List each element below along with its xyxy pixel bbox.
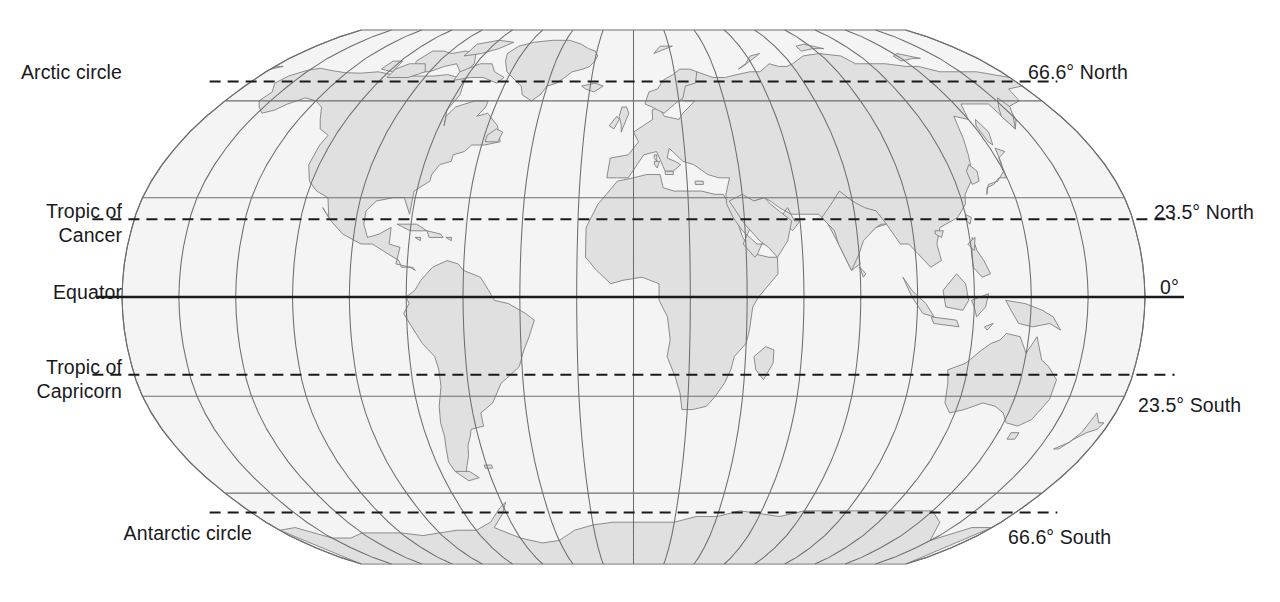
landmass-sicily <box>665 171 673 174</box>
world-map-canvas <box>0 0 1280 602</box>
label-arctic-circle-right: 66.6° North <box>1028 60 1128 84</box>
label-tropic-of-capricorn-right: 23.5° South <box>1138 393 1241 417</box>
label-tropic-of-cancer-right: 23.5° North <box>1154 200 1254 224</box>
label-tropic-of-cancer-left: Tropic of Cancer <box>46 199 122 247</box>
landmass-crete <box>695 181 703 184</box>
label-antarctic-circle-left: Antarctic circle <box>124 521 252 545</box>
landmass-falkland <box>484 465 492 468</box>
world-map-figure: Arctic circle Tropic of Cancer Equator T… <box>0 0 1280 602</box>
label-tropic-of-capricorn-left: Tropic of Capricorn <box>37 355 122 403</box>
label-arctic-circle-left: Arctic circle <box>21 60 122 84</box>
label-antarctic-circle-right: 66.6° South <box>1008 525 1111 549</box>
label-equator-right: 0° <box>1160 275 1179 299</box>
label-equator-left: Equator <box>53 280 122 304</box>
